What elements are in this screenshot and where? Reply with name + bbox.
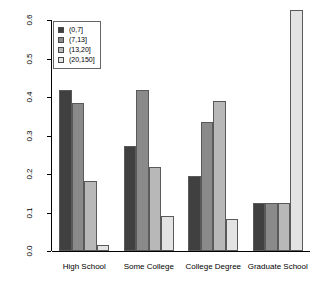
x-axis-line	[52, 251, 310, 252]
y-axis-tick-label: 0.2	[16, 160, 44, 188]
bar	[290, 10, 303, 251]
legend-item: (0,7]	[58, 25, 95, 35]
x-axis-category-label: Graduate School	[238, 262, 318, 271]
bar	[201, 122, 214, 251]
bar	[213, 101, 226, 251]
bar-group	[117, 20, 182, 251]
y-axis-tick-mark	[47, 97, 51, 98]
bar-chart: PROPORTION 0.00.10.20.30.40.50.6 High Sc…	[0, 0, 321, 297]
legend-swatch-icon	[58, 57, 64, 63]
bar	[161, 216, 174, 251]
y-axis-tick: 0.4	[0, 97, 51, 98]
legend-label: (13,20]	[69, 45, 91, 55]
y-axis-tick: 0.3	[0, 136, 51, 137]
bar	[253, 203, 266, 251]
y-axis-tick-label: 0.1	[16, 199, 44, 227]
legend-swatch-icon	[58, 27, 64, 33]
y-axis-tick-mark	[47, 251, 51, 252]
bar	[136, 90, 149, 251]
legend-item: (13,20]	[58, 45, 95, 55]
y-axis-tick-mark	[47, 136, 51, 137]
y-axis-tick: 0.1	[0, 213, 51, 214]
y-axis-label: PROPORTION	[2, 0, 16, 28]
legend-swatch-icon	[58, 47, 64, 53]
bar-group	[246, 20, 311, 251]
legend: (0,7](7,13](13,20](20,150]	[53, 21, 101, 69]
bar	[149, 167, 162, 251]
legend-swatch-icon	[58, 37, 64, 43]
y-axis-tick-mark	[47, 174, 51, 175]
legend-label: (20,150]	[69, 55, 95, 65]
y-axis-tick-label: 0.0	[16, 237, 44, 265]
bar	[124, 146, 137, 251]
bar	[278, 203, 291, 251]
y-axis-tick: 0.5	[0, 59, 51, 60]
y-axis-tick: 0.2	[0, 174, 51, 175]
y-axis-tick-mark	[47, 59, 51, 60]
bar-group	[181, 20, 246, 251]
bar	[97, 245, 110, 251]
bar	[72, 103, 85, 251]
y-axis-tick-label: 0.4	[16, 83, 44, 111]
bar	[59, 90, 72, 251]
bar	[188, 176, 201, 251]
legend-label: (0,7]	[69, 25, 83, 35]
y-axis-tick-label: 0.3	[16, 122, 44, 150]
y-axis-tick: 0.6	[0, 20, 51, 21]
y-axis-tick-mark	[47, 20, 51, 21]
legend-item: (20,150]	[58, 55, 95, 65]
bar	[265, 203, 278, 251]
y-axis-tick: 0.0	[0, 251, 51, 252]
legend-label: (7,13]	[69, 35, 87, 45]
y-axis-tick-label: 0.6	[16, 6, 44, 34]
legend-item: (7,13]	[58, 35, 95, 45]
bar	[226, 219, 239, 251]
y-axis-tick-label: 0.5	[16, 45, 44, 73]
y-axis-tick-mark	[47, 213, 51, 214]
bar	[84, 181, 97, 251]
